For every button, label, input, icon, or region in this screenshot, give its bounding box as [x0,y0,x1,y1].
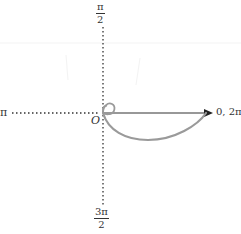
label-origin: O [91,115,100,126]
fraction-denominator: 2 [97,220,105,230]
polar-curve-outer-loop [103,113,206,140]
label-pi: π [0,107,7,118]
background-artifacts [0,43,241,85]
fraction-numerator: π [96,2,105,12]
fraction-numerator: 3π [94,207,109,217]
polar-curve-inner-small [103,106,107,113]
label-zero-2pi: 0, 2π [216,107,241,117]
label-pi-over-2: π 2 [96,2,105,25]
polar-diagram [0,0,241,234]
label-3pi-over-2: 3π 2 [94,207,109,230]
fraction-denominator: 2 [96,15,104,25]
